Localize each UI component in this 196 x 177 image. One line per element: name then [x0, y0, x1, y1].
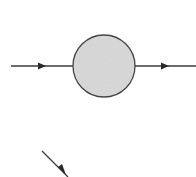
diagonal-line [42, 151, 68, 177]
arrow-right-icon [38, 63, 46, 70]
diagram-canvas [0, 0, 196, 177]
outgoing-line [135, 63, 196, 70]
arrow-right-icon [161, 63, 169, 70]
arrow-diagonal-icon [58, 164, 66, 175]
self-energy-blob [73, 35, 135, 97]
incoming-line [11, 63, 73, 70]
